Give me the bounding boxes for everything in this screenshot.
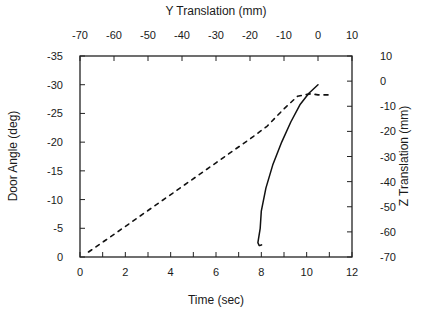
x2-tick-label: -10: [276, 29, 292, 41]
x-tick-label: 2: [122, 266, 128, 278]
y2-tick-label: -10: [380, 100, 396, 112]
y2-tick-label: 10: [380, 50, 392, 62]
x-tick-label: 10: [301, 266, 313, 278]
chart: Y Translation (mm) Time (sec) Door Angle…: [0, 0, 421, 315]
y-tick-label: -25: [47, 107, 63, 119]
x2-tick-label: -40: [174, 29, 190, 41]
y2-tick-label: -50: [380, 201, 396, 213]
y-tick-label: 0: [57, 251, 63, 263]
y2-tick-label: -40: [380, 176, 396, 188]
x-tick-label: 6: [213, 266, 219, 278]
x2-tick-label: 10: [346, 29, 358, 41]
y2-tick-label: -20: [380, 125, 396, 137]
y-tick-label: -15: [47, 165, 63, 177]
x2-tick-label: -60: [106, 29, 122, 41]
y-tick-label: -10: [47, 194, 63, 206]
y-tick-label: -5: [53, 222, 63, 234]
y-axis-label: Door Angle (deg): [6, 111, 20, 202]
y-tick-label: -35: [47, 50, 63, 62]
y2-tick-label: -70: [380, 251, 396, 263]
x-tick-label: 8: [258, 266, 264, 278]
series-line-translation: [89, 94, 329, 252]
y2-axis-label: Z Translation (mm): [397, 106, 411, 207]
x-tick-label: 4: [168, 266, 174, 278]
x2-tick-label: -30: [208, 29, 224, 41]
x2-tick-label: -20: [242, 29, 258, 41]
y2-tick-label: -30: [380, 151, 396, 163]
x2-tick-label: 0: [315, 29, 321, 41]
x2-axis-label: Y Translation (mm): [165, 4, 266, 18]
x2-tick-label: -70: [72, 29, 88, 41]
y-tick-label: -20: [47, 136, 63, 148]
x2-tick-label: -50: [140, 29, 156, 41]
y-tick-label: -30: [47, 79, 63, 91]
x-axis-label: Time (sec): [188, 293, 244, 307]
x-tick-label: 0: [77, 266, 83, 278]
y2-tick-label: 0: [380, 75, 386, 87]
series-line-door-angle: [258, 85, 318, 246]
x-tick-label: 12: [346, 266, 358, 278]
y2-tick-label: -60: [380, 226, 396, 238]
plot-frame: [80, 56, 352, 257]
